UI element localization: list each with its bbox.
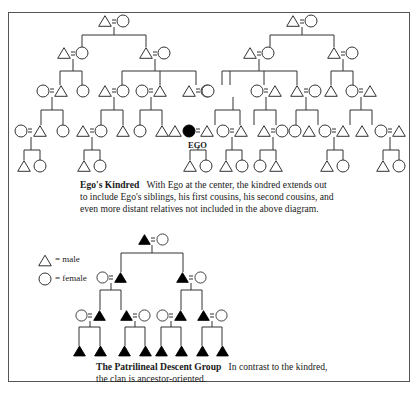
kindred-caption: Ego's Kindred With Ego at the center, th… bbox=[80, 179, 410, 215]
patrilineal-caption-line-1: In contrast to the kindred, bbox=[229, 361, 328, 372]
legend-male-icon bbox=[39, 255, 52, 266]
patrilineal-caption-title: The Patrilineal Descent Group bbox=[96, 361, 221, 372]
legend-male: = male bbox=[55, 254, 80, 264]
kindred-caption-line-3: even more distant relatives not included… bbox=[80, 203, 410, 215]
patrilineal-caption: The Patrilineal Descent Group In contras… bbox=[96, 361, 406, 385]
legend-male-label: = male bbox=[55, 254, 80, 264]
legend-female-icon bbox=[39, 273, 51, 285]
kindred-caption-title: Ego's Kindred bbox=[80, 179, 139, 190]
ego-label: EGO bbox=[188, 139, 207, 151]
kindred-caption-line-2: to include Ego's siblings, his first cou… bbox=[80, 191, 410, 203]
legend-female-label: = female bbox=[55, 273, 87, 283]
legend-female: = female bbox=[55, 273, 87, 283]
kindred-caption-line-1: With Ego at the center, the kindred exte… bbox=[146, 179, 326, 190]
patrilineal-diagram bbox=[74, 234, 229, 356]
patrilineal-caption-line-2: the clan is ancestor-oriented. bbox=[96, 373, 406, 385]
kindred-diagram bbox=[15, 15, 405, 172]
